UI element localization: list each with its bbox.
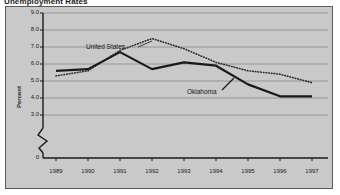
y-axis-title: Percent (16, 86, 22, 108)
y-tick-label: 9.0 (20, 9, 39, 15)
chart-frame (5, 6, 333, 189)
x-tick-label: 1996 (264, 168, 296, 174)
x-tick-label: 1992 (136, 168, 168, 174)
x-tick-label: 1994 (200, 168, 232, 174)
y-tick-label: 0 (20, 154, 39, 160)
x-tick-label: 1990 (72, 168, 104, 174)
y-tick-label: 7.0 (20, 43, 39, 49)
series-label-oklahoma: Oklahoma (187, 88, 217, 95)
y-tick-label: 5.0 (20, 77, 39, 83)
series-label-united-states: United States (86, 43, 125, 50)
x-tick-label: 1997 (296, 168, 328, 174)
y-tick-label: 4.0 (20, 94, 39, 100)
label-leader-oklahoma (222, 78, 234, 90)
y-tick-label: 6.0 (20, 60, 39, 66)
x-tick-label: 1991 (104, 168, 136, 174)
y-axis-break-symbol (38, 128, 47, 153)
x-tick-label: 1989 (40, 168, 72, 174)
x-tick-label: 1993 (168, 168, 200, 174)
x-tick-label: 1995 (232, 168, 264, 174)
y-tick-label: 8.0 (20, 26, 39, 32)
chart-figure: Unemployment Rates 9.08.07.06.05.04.03.0… (0, 0, 340, 195)
y-tick-label: 3.0 (20, 111, 39, 117)
plot-area (6, 7, 332, 188)
label-leader-united-states (138, 41, 152, 47)
